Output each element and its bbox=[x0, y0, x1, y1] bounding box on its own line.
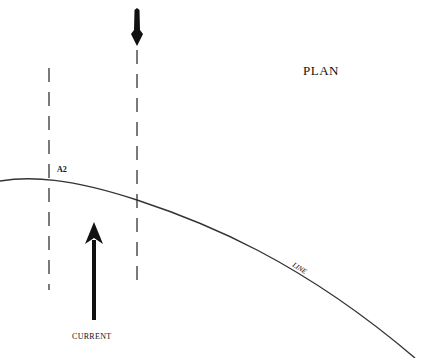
station-label: A2 bbox=[57, 165, 67, 174]
current-arrow-icon bbox=[85, 222, 103, 320]
line-curve bbox=[0, 179, 415, 358]
current-label: CURRENT bbox=[72, 332, 111, 341]
plan-diagram: PLAN A2 CURRENT LINE bbox=[0, 0, 447, 358]
plan-title: PLAN bbox=[303, 63, 339, 78]
down-arrow-icon bbox=[131, 8, 143, 46]
